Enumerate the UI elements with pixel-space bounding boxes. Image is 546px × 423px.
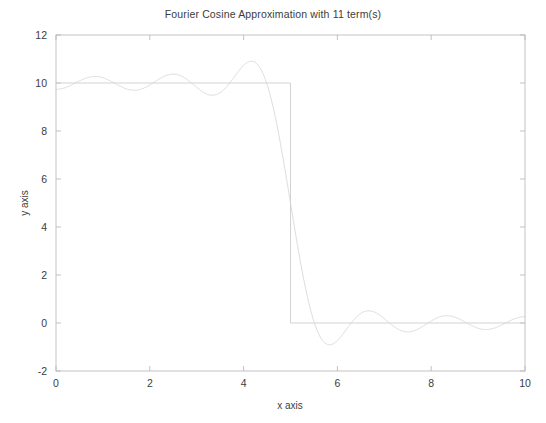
x-tick-label: 8: [428, 377, 434, 389]
y-tick-label: 12: [35, 29, 47, 41]
y-tick-label: 10: [35, 77, 47, 89]
y-tick-label: 0: [41, 317, 47, 329]
x-axis-title: x axis: [277, 400, 303, 411]
x-tick-label: 10: [519, 377, 531, 389]
x-tick-label: 4: [241, 377, 247, 389]
data-series-group: [56, 61, 525, 345]
plot-area: 0246810 -2024681012 x axis y axis: [0, 0, 546, 423]
y-tick-label: 4: [41, 221, 47, 233]
y-tick-label: 2: [41, 269, 47, 281]
y-tick-label: 6: [41, 173, 47, 185]
y-tick-label: -2: [38, 365, 47, 377]
y-axis-tick-labels: -2024681012: [35, 29, 47, 377]
y-tick-label: 8: [41, 125, 47, 137]
figure-canvas: Fourier Cosine Approximation with 11 ter…: [0, 0, 546, 423]
x-tick-label: 2: [147, 377, 153, 389]
x-axis-tick-labels: 0246810: [53, 377, 531, 389]
x-tick-label: 6: [334, 377, 340, 389]
y-axis-title: y axis: [19, 190, 30, 216]
x-tick-label: 0: [53, 377, 59, 389]
